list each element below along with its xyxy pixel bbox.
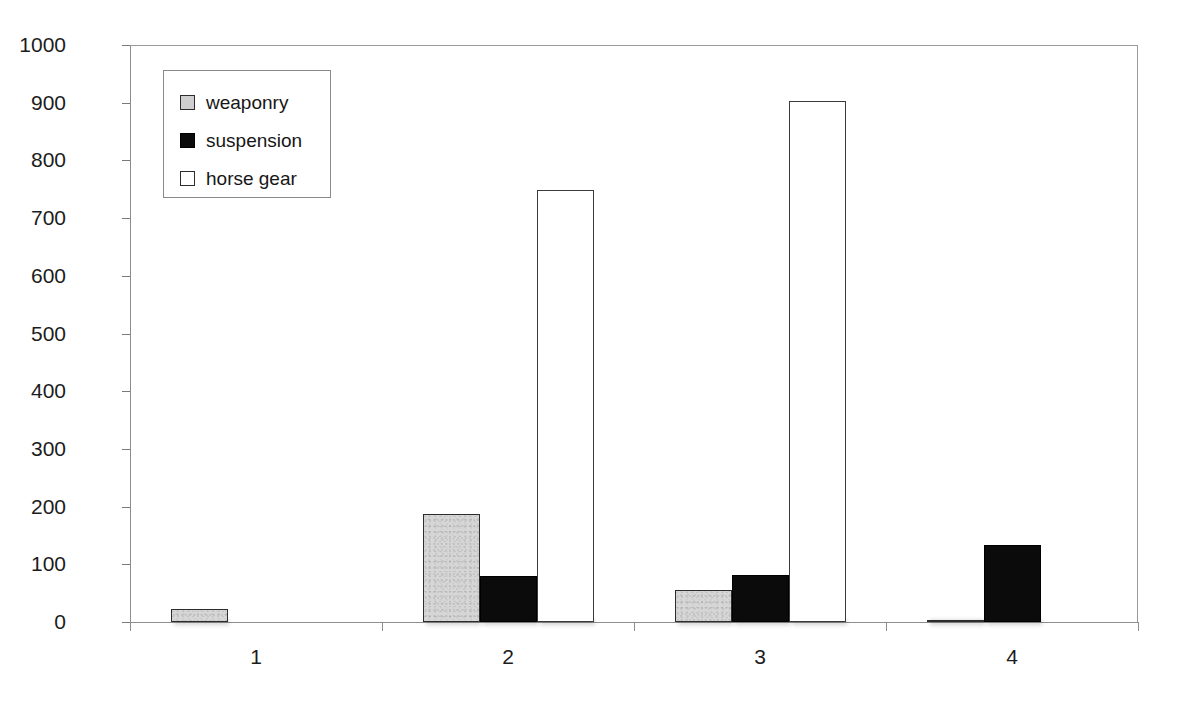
bar-suspension-2[interactable] xyxy=(480,576,537,622)
bar-group-3 xyxy=(675,45,846,622)
bar-horse-gear-3[interactable] xyxy=(789,101,846,622)
bar-suspension-4[interactable] xyxy=(984,545,1041,622)
chart-legend: weaponry suspension horse gear xyxy=(163,70,331,198)
legend-item-horse-gear[interactable]: horse gear xyxy=(180,159,330,197)
bar-weaponry-1[interactable] xyxy=(171,609,228,622)
x-tick-label-4: 4 xyxy=(982,646,1042,667)
bar-horse-gear-2[interactable] xyxy=(537,190,594,622)
bar-weaponry-4[interactable] xyxy=(927,620,984,622)
bar-group-2 xyxy=(423,45,594,622)
bar-chart: 10009008007006005004003002001000 1234 we… xyxy=(0,0,1190,704)
x-tick-label-2: 2 xyxy=(478,646,538,667)
x-tick-mark xyxy=(382,622,383,631)
bar-weaponry-3[interactable] xyxy=(675,590,732,622)
x-tick-mark xyxy=(130,622,131,631)
legend-swatch-weaponry-icon xyxy=(180,95,195,110)
x-tick-mark xyxy=(1138,622,1139,631)
x-tick-label-1: 1 xyxy=(226,646,286,667)
legend-label-horse-gear: horse gear xyxy=(206,169,297,188)
legend-swatch-horse-gear-icon xyxy=(180,171,195,186)
legend-item-weaponry[interactable]: weaponry xyxy=(180,83,330,121)
bar-weaponry-2[interactable] xyxy=(423,514,480,622)
legend-swatch-suspension-icon xyxy=(180,133,195,148)
x-tick-mark xyxy=(886,622,887,631)
y-tick-mark xyxy=(122,622,130,623)
bar-suspension-3[interactable] xyxy=(732,575,789,622)
legend-item-suspension[interactable]: suspension xyxy=(180,121,330,159)
x-tick-mark xyxy=(634,622,635,631)
legend-label-weaponry: weaponry xyxy=(206,93,288,112)
legend-label-suspension: suspension xyxy=(206,131,302,150)
bar-group-4 xyxy=(927,45,1098,622)
x-tick-label-3: 3 xyxy=(730,646,790,667)
